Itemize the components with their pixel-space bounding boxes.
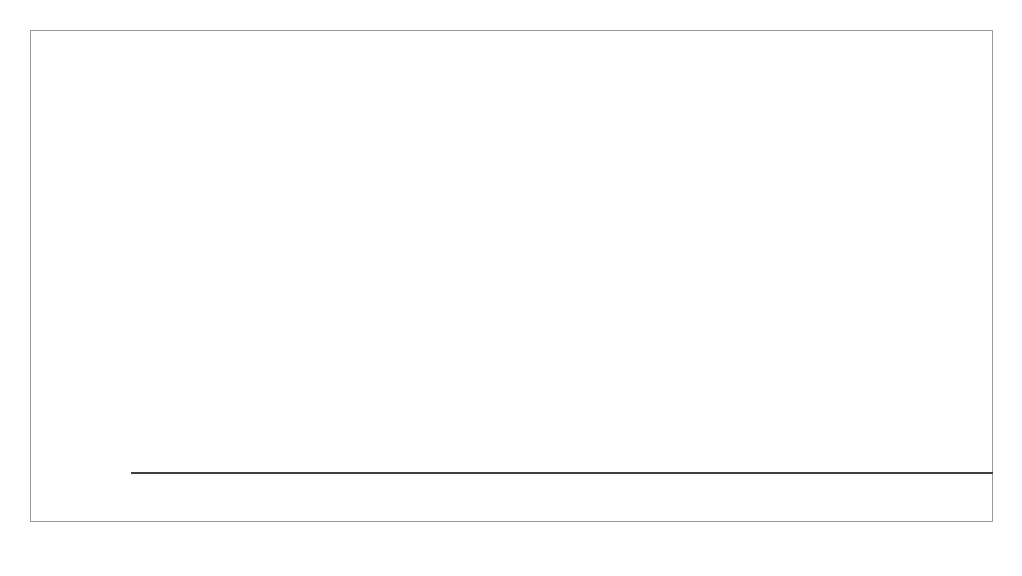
plot-area <box>131 191 993 474</box>
figure-frame <box>30 30 993 522</box>
x-axis-baseline <box>131 472 993 475</box>
